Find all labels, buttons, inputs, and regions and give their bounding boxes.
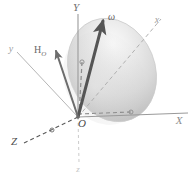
origin-label: O	[78, 117, 86, 129]
body-y-axis-label: y	[8, 43, 14, 54]
fixed-Y-axis-label: Y	[73, 1, 81, 13]
body-z-axis-label: z	[75, 164, 80, 174]
angular-momentum-label: H	[34, 44, 41, 55]
fixed-Z-axis-label: Z	[11, 135, 18, 147]
ellipsoid-body	[49, 5, 172, 138]
diagram-canvas: Y X Z x y z O ω HO	[0, 0, 195, 179]
body-x-axis-label: x	[154, 14, 160, 25]
rigid-body-diagram: Y X Z x y z O ω HO	[0, 0, 195, 179]
angular-momentum-subscript: O	[41, 50, 46, 58]
omega-vector-label: ω	[108, 11, 115, 22]
fixed-X-axis-label: X	[175, 114, 184, 126]
fixed-Z-axis-line	[24, 117, 78, 143]
angular-momentum-label-group: HO	[34, 44, 46, 58]
